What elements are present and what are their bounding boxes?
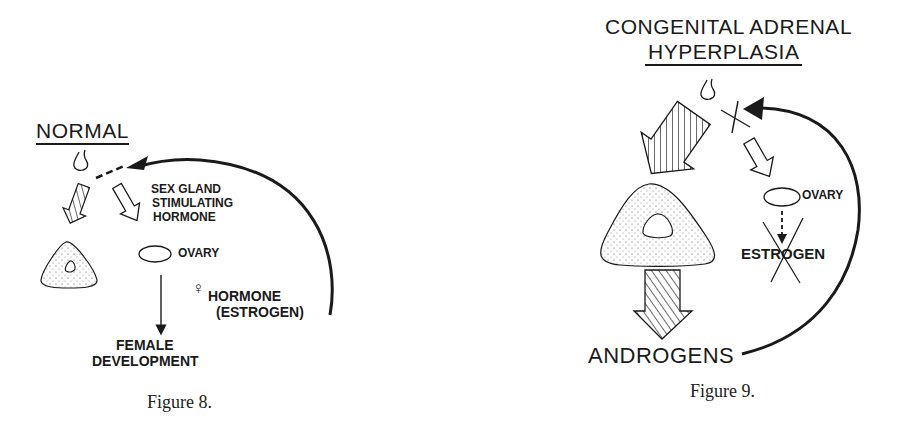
hatched-arrow-icon <box>59 181 95 227</box>
figure-9 <box>601 79 860 354</box>
hormone-label: HORMONE <box>208 289 281 304</box>
pituitary-icon <box>74 150 88 170</box>
feedback-arrow <box>742 108 859 354</box>
figure-9-caption: Figure 9. <box>690 381 755 402</box>
open-arrow-icon <box>738 134 781 183</box>
hatched-arrow-icon <box>625 95 720 192</box>
figure-8-title: NORMAL <box>36 119 129 145</box>
figure-8 <box>41 150 332 330</box>
ovary-label: OVARY <box>178 247 219 260</box>
sgsh-label-2: STIMULATING <box>152 197 233 210</box>
figure-9-title-line1: CONGENITAL ADRENAL <box>605 15 852 39</box>
estrogen-label: (ESTROGEN) <box>216 305 304 320</box>
ovary-icon <box>139 246 171 262</box>
feedback-dash <box>96 166 124 178</box>
androgens-label: ANDROGENS <box>588 343 734 369</box>
figure-9-title-line2: HYPERPLASIA <box>645 40 802 66</box>
sgsh-label-1: SEX GLAND <box>151 183 221 196</box>
development-label: DEVELOPMENT <box>92 354 199 369</box>
pituitary-icon <box>701 79 715 99</box>
androgens-arrow-icon <box>634 270 692 339</box>
female-symbol-icon: ♀ <box>192 280 205 299</box>
estrogen-label: ESTROGEN <box>741 246 825 263</box>
ovary-icon <box>764 188 800 206</box>
figure-8-caption: Figure 8. <box>147 392 212 413</box>
open-arrow-icon <box>107 180 146 226</box>
female-label: FEMALE <box>116 338 174 353</box>
sgsh-label-3: HORMONE <box>153 211 216 224</box>
ovary-label: OVARY <box>802 189 843 202</box>
